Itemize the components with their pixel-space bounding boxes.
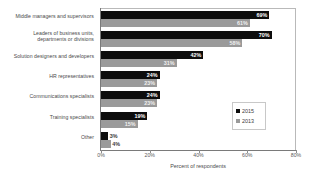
bar-chart: Middle managers and supervisors69%61%Lea… xyxy=(0,0,310,183)
bar-2013: 58% xyxy=(101,39,242,47)
category-row: HR representatives24%23% xyxy=(0,71,310,91)
legend-swatch-icon xyxy=(236,119,240,123)
bar-value-label: 58% xyxy=(230,39,241,47)
legend-swatch-icon xyxy=(236,109,240,113)
chart-legend: 2015 2013 xyxy=(232,102,266,130)
bar-value-label: 15% xyxy=(125,120,136,128)
bar-value-label: 42% xyxy=(191,51,202,59)
legend-label: 2015 xyxy=(242,108,254,114)
bar-value-label: 23% xyxy=(144,99,155,107)
bar-2013: 23% xyxy=(101,99,157,107)
bar-2013: 61% xyxy=(101,19,250,27)
bar-value-label: 24% xyxy=(147,91,158,99)
bar-value-label: 4% xyxy=(112,140,120,148)
bar-value-label: 23% xyxy=(144,79,155,87)
bar-2015: 3% xyxy=(101,132,108,140)
bar-2015: 42% xyxy=(101,51,203,59)
bar-2015: 70% xyxy=(101,31,272,39)
category-row: Leaders of business units,departments or… xyxy=(0,31,310,51)
category-label: Communications specialists xyxy=(0,93,94,99)
category-label: Leaders of business units,departments or… xyxy=(0,30,94,42)
category-row: Other3%4% xyxy=(0,132,310,152)
x-axis-title: Percent of respondents xyxy=(100,163,296,169)
x-tick-label: 60% xyxy=(242,152,252,158)
bar-value-label: 19% xyxy=(135,112,146,120)
bar-value-label: 31% xyxy=(164,59,175,67)
category-label: Training specialists xyxy=(0,114,94,120)
bar-2013: 15% xyxy=(101,120,138,128)
bar-2013: 31% xyxy=(101,59,177,67)
legend-label: 2013 xyxy=(242,118,254,124)
bar-2015: 24% xyxy=(101,71,160,79)
bar-value-label: 24% xyxy=(147,71,158,79)
category-label: HR representatives xyxy=(0,73,94,79)
bar-value-label: 61% xyxy=(237,19,248,27)
x-tick-label: 0% xyxy=(97,152,105,158)
bar-2013: 4% xyxy=(101,140,111,148)
x-tick-label: 20% xyxy=(145,152,155,158)
category-label: Middle managers and supervisors xyxy=(0,13,94,19)
bar-value-label: 3% xyxy=(110,132,118,140)
bar-2015: 69% xyxy=(101,11,269,19)
category-label: Other xyxy=(0,134,94,140)
category-label: Solution designers and developers xyxy=(0,53,94,59)
category-row: Solution designers and developers42%31% xyxy=(0,51,310,71)
legend-item-2013: 2013 xyxy=(236,116,265,126)
x-tick-label: 40% xyxy=(193,152,203,158)
bar-2015: 19% xyxy=(101,112,147,120)
category-row: Middle managers and supervisors69%61% xyxy=(0,11,310,31)
legend-item-2015: 2015 xyxy=(236,106,265,116)
bar-value-label: 69% xyxy=(256,11,267,19)
bar-2013: 23% xyxy=(101,79,157,87)
bar-value-label: 70% xyxy=(259,31,270,39)
bar-2015: 24% xyxy=(101,91,160,99)
x-tick-label: 80% xyxy=(291,152,301,158)
